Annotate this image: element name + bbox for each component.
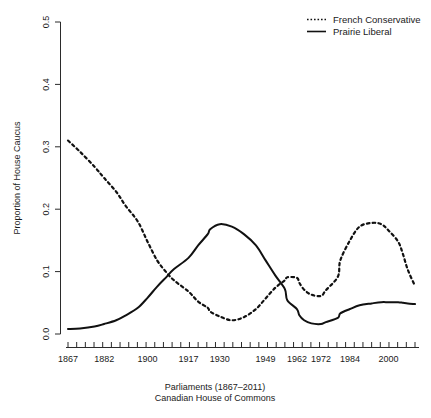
y-tick-label: 0.0 bbox=[41, 328, 51, 341]
legend: French Conservative Prairie Liberal bbox=[307, 14, 421, 37]
y-axis-ticks: 0.00.10.20.30.40.5 bbox=[41, 16, 60, 341]
series-prairie-liberal bbox=[68, 224, 415, 329]
x-tick-label: 1972 bbox=[311, 354, 331, 364]
x-axis-title-line2: Canadian House of Commons bbox=[155, 393, 276, 403]
y-tick-label: 0.5 bbox=[41, 16, 51, 29]
x-tick-label: 1900 bbox=[138, 354, 158, 364]
y-tick-label: 0.3 bbox=[41, 141, 51, 154]
x-tick-label: 1882 bbox=[94, 354, 114, 364]
legend-label-french-conservative: French Conservative bbox=[333, 14, 421, 25]
x-axis-tick-labels: 1867188219001917193019491962197219842000 bbox=[58, 354, 399, 364]
legend-label-prairie-liberal: Prairie Liberal bbox=[333, 26, 392, 37]
y-axis: 0.00.10.20.30.40.5 Proportion of House C… bbox=[12, 16, 61, 341]
series-group bbox=[68, 141, 415, 329]
x-tick-label: 1930 bbox=[210, 354, 230, 364]
x-tick-label: 1962 bbox=[287, 354, 307, 364]
y-axis-title: Proportion of House Caucus bbox=[12, 121, 22, 235]
chart-container: 0.00.10.20.30.40.5 Proportion of House C… bbox=[0, 0, 431, 418]
line-chart: 0.00.10.20.30.40.5 Proportion of House C… bbox=[0, 0, 431, 418]
y-tick-label: 0.2 bbox=[41, 203, 51, 216]
y-tick-label: 0.1 bbox=[41, 265, 51, 278]
series-french-conservative bbox=[68, 141, 415, 321]
y-tick-label: 0.4 bbox=[41, 78, 51, 91]
x-tick-label: 1949 bbox=[256, 354, 276, 364]
x-axis-minor-ticks bbox=[68, 342, 415, 348]
x-axis: 1867188219001917193019491962197219842000… bbox=[58, 342, 419, 403]
x-tick-label: 1984 bbox=[340, 354, 360, 364]
x-axis-title-line1: Parliaments (1867–2011) bbox=[165, 382, 265, 392]
x-tick-label: 1917 bbox=[178, 354, 198, 364]
x-tick-label: 1867 bbox=[58, 354, 78, 364]
x-tick-label: 2000 bbox=[378, 354, 398, 364]
